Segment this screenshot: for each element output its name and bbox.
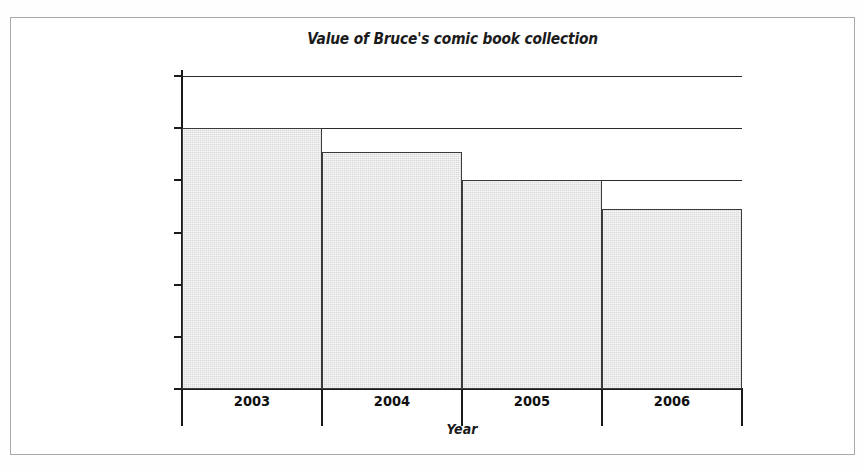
x-axis-title: Year — [210, 421, 714, 437]
chart-figure: Value of Bruce's comic book collection $… — [0, 0, 864, 472]
x-axis-tick — [741, 390, 743, 426]
bar-2006 — [602, 209, 742, 389]
x-axis-tick-label: 2003 — [189, 393, 315, 409]
y-axis-tick — [174, 75, 183, 77]
chart-title: Value of Bruce's comic book collection — [183, 30, 721, 48]
bar-2005 — [462, 180, 602, 389]
bar-2004 — [322, 152, 462, 389]
gridline — [182, 76, 742, 77]
x-axis-tick-label: 2004 — [329, 393, 455, 409]
bar-2003 — [182, 128, 322, 389]
x-axis-tick-label: 2006 — [609, 393, 735, 409]
x-axis-tick-label: 2005 — [469, 393, 595, 409]
x-axis-tick — [181, 390, 183, 426]
